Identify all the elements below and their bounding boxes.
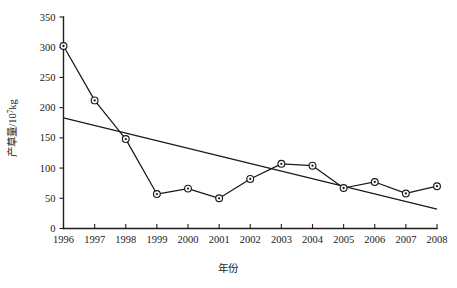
x-tick-label-1997: 1997 [84, 234, 105, 245]
data-point-1998 [122, 136, 129, 143]
x-axis-tick-labels: 1996199719981999200020012002200320042005… [53, 234, 448, 245]
data-point-1997 [91, 97, 98, 104]
data-point-2006 [371, 179, 378, 186]
data-point-2001 [216, 195, 223, 202]
data-point-2002 [247, 176, 254, 183]
y-tick-label-0: 0 [50, 223, 55, 234]
x-tick-label-1998: 1998 [115, 234, 136, 245]
data-point-2007 [402, 190, 409, 197]
y-tick-label-150: 150 [40, 132, 56, 143]
x-tick-label-2006: 2006 [364, 234, 385, 245]
y-axis-title: 产草量/107kg [6, 98, 18, 156]
y-tick-label-350: 350 [40, 12, 56, 23]
data-point-1999 [153, 191, 160, 198]
x-tick-label-2003: 2003 [271, 234, 292, 245]
x-tick-label-2005: 2005 [333, 234, 354, 245]
data-point-2000 [185, 185, 192, 192]
y-tick-label-300: 300 [40, 42, 56, 53]
chart-container: 050100150200250300350 199619971998199920… [0, 0, 457, 288]
x-tick-label-2001: 2001 [209, 234, 230, 245]
svg-text:产草量/107kg: 产草量/107kg [6, 98, 18, 156]
y-axis-tick-labels: 050100150200250300350 [40, 12, 56, 235]
y-tick-label-50: 50 [45, 193, 56, 204]
x-tick-label-2008: 2008 [427, 234, 448, 245]
y-tick-label-200: 200 [40, 102, 56, 113]
x-tick-label-2002: 2002 [240, 234, 261, 245]
data-point-2004 [309, 162, 316, 169]
x-tick-label-1996: 1996 [53, 234, 74, 245]
x-tick-label-1999: 1999 [146, 234, 167, 245]
x-tick-label-2007: 2007 [395, 234, 416, 245]
data-point-markers [60, 43, 440, 202]
x-tick-label-2000: 2000 [178, 234, 199, 245]
axes-group [64, 17, 438, 229]
data-point-1996 [60, 43, 67, 50]
x-tick-label-2004: 2004 [302, 234, 324, 245]
line-chart: 050100150200250300350 199619971998199920… [0, 0, 457, 288]
data-point-2005 [340, 185, 347, 192]
y-tick-label-250: 250 [40, 72, 56, 83]
data-point-2008 [434, 183, 441, 190]
y-tick-label-100: 100 [40, 163, 56, 174]
data-point-2003 [278, 160, 285, 167]
x-axis-title: 年份 [218, 262, 239, 274]
